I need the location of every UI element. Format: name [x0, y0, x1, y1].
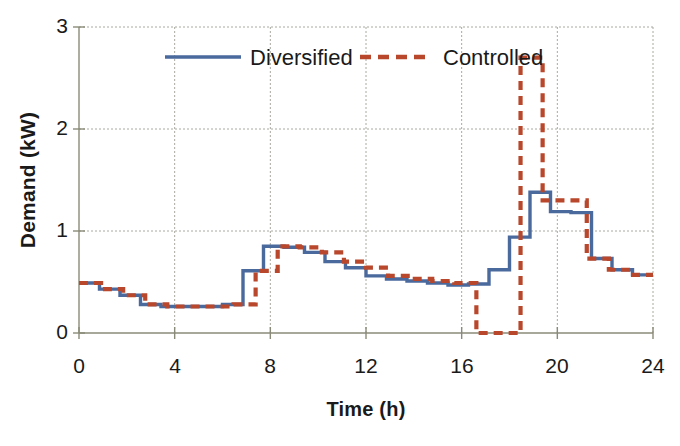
demand-profile-chart: Demand (kW) Time (h) 3 2 1 0 0 4 8 12 16… [0, 0, 680, 446]
chart-legend: DiversifiedControlled [165, 45, 543, 70]
legend-label-controlled: Controlled [443, 45, 543, 70]
gridlines [79, 27, 653, 333]
axis-ticks [73, 27, 653, 339]
plot-area: DiversifiedControlled [0, 0, 680, 446]
series-line-diversified [79, 192, 653, 306]
legend-label-diversified: Diversified [250, 45, 353, 70]
